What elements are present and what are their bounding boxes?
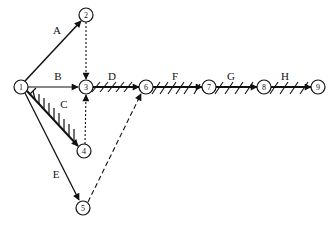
svg-text:3: 3 (84, 83, 88, 92)
svg-text:1: 1 (19, 83, 23, 92)
dummy-edge-4-3 (85, 95, 86, 144)
svg-text:7: 7 (207, 83, 211, 92)
svg-text:4: 4 (82, 147, 86, 156)
node-8: 8 (257, 80, 271, 94)
edge-label-f: F (172, 70, 178, 82)
svg-text:9: 9 (316, 83, 320, 92)
svg-text:8: 8 (262, 83, 266, 92)
edge-label-d: D (108, 70, 116, 82)
node-2: 2 (79, 8, 93, 22)
node-1: 1 (14, 80, 28, 94)
edge-f-critical (152, 82, 202, 94)
svg-text:6: 6 (144, 83, 148, 92)
edge-label-a: A (53, 24, 61, 36)
node-7: 7 (202, 80, 216, 94)
edge-label-g: G (227, 70, 235, 82)
network-diagram: 1 2 3 4 5 6 7 8 9 A B C D E F G H (0, 0, 335, 229)
node-3: 3 (79, 80, 93, 94)
edge-c-critical (27, 88, 78, 146)
node-9: 9 (311, 80, 325, 94)
edge-d-critical (92, 82, 139, 92)
edge-label-c: C (60, 98, 67, 110)
node-6: 6 (139, 80, 153, 94)
node-4: 4 (77, 144, 91, 158)
edge-g-critical (215, 82, 257, 94)
svg-text:5: 5 (81, 204, 85, 213)
dummy-edge-5-6 (88, 94, 141, 202)
edge-h-critical (270, 82, 311, 94)
edge-label-b: B (54, 70, 61, 82)
edge-label-e: E (53, 168, 60, 180)
edge-label-h: H (281, 70, 289, 82)
edge-e (25, 93, 79, 200)
node-5: 5 (76, 201, 90, 215)
svg-text:2: 2 (84, 11, 88, 20)
